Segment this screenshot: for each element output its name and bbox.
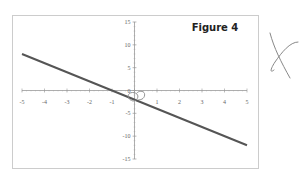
- x-tick-label: 5: [246, 99, 249, 105]
- x-tick-label: -1: [110, 99, 115, 105]
- y-tick-label: -15: [123, 156, 131, 162]
- y-tick-label: 10: [125, 42, 131, 48]
- x-tick-label: -3: [65, 99, 70, 105]
- x-tick-label: 2: [178, 99, 181, 105]
- x-tick-label: -5: [20, 99, 25, 105]
- x-tick-label: -2: [87, 99, 92, 105]
- chart-title: Figure 4: [192, 22, 239, 33]
- y-tick-label: 15: [125, 19, 131, 25]
- x-tick-label: -4: [42, 99, 47, 105]
- x-mark-annotation: [270, 33, 298, 78]
- x-tick-label: 3: [201, 99, 204, 105]
- chart-frame: [13, 16, 259, 169]
- x-tick-label: 1: [156, 99, 159, 105]
- y-tick-label: -10: [123, 133, 131, 139]
- y-tick-label: -5: [126, 110, 131, 116]
- x-tick-label: 4: [223, 99, 226, 105]
- figure-4-chart: -5-4-3-2-112345151050-5-10-15Figure 4: [0, 0, 308, 181]
- y-tick-label: 5: [128, 65, 131, 71]
